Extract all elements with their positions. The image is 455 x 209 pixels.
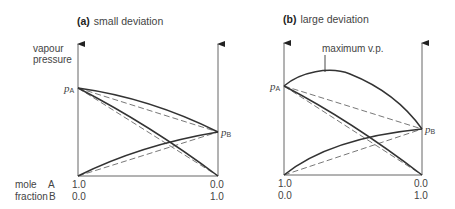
- x-axis-B: B: [49, 191, 56, 202]
- panel-a: (a)small deviation pA pB 1.0 0.0 0.0 1.0: [63, 15, 232, 202]
- x-axis-A: A: [48, 179, 55, 190]
- pb-label: pB: [220, 126, 232, 138]
- x-left-A: 1.0: [72, 179, 86, 190]
- vapour-pressure-diagram: (a)small deviation pA pB 1.0 0.0 0.0 1.0…: [0, 0, 455, 209]
- x-left-B: 0.0: [72, 191, 86, 202]
- panel-a-title: small deviation: [94, 15, 164, 27]
- ideal-pb-line: [284, 129, 422, 175]
- svg-text:(b)large deviation: (b)large deviation: [283, 13, 369, 25]
- x-left-A: 1.0: [278, 178, 292, 189]
- x-right-B: 1.0: [210, 191, 224, 202]
- panel-b-title: large deviation: [300, 13, 368, 25]
- ideal-pb-line: [78, 132, 218, 176]
- y-axis-label-1: vapour: [33, 43, 64, 54]
- x-right-A: 0.0: [210, 179, 224, 190]
- ideal-total-line: [284, 86, 422, 129]
- pb-label: pB: [424, 123, 436, 135]
- panel-b: (b)large deviation maximum v.p. pA pB 1.…: [269, 13, 436, 201]
- panel-a-letter: (a): [77, 15, 90, 27]
- ideal-total-line: [78, 88, 218, 132]
- x-right-B: 1.0: [414, 190, 428, 201]
- ideal-pa-line: [78, 88, 218, 176]
- pa-label: pA: [63, 82, 75, 94]
- pa-label: pA: [269, 80, 281, 92]
- x-left-B: 0.0: [278, 190, 292, 201]
- svg-text:(a)small deviation: (a)small deviation: [77, 15, 163, 27]
- y-axis-label-2: pressure: [33, 54, 72, 65]
- max-vp-annotation: maximum v.p.: [322, 43, 384, 54]
- x-axis-label-2: fraction: [15, 191, 48, 202]
- x-right-A: 0.0: [414, 178, 428, 189]
- total-vp-curve: [284, 70, 422, 129]
- panel-b-letter: (b): [283, 13, 296, 25]
- x-axis-label-1: mole: [15, 179, 37, 190]
